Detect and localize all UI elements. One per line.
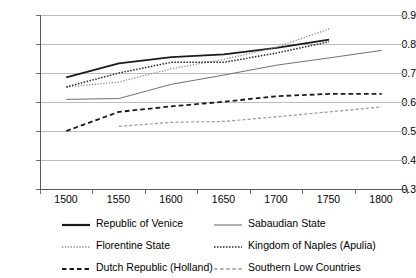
- chart-root: 0.9 0.8 0.7 0.6 0.5 0.4 0.3: [0, 0, 416, 278]
- legend-label-southern-low-countries: Southern Low Countries: [248, 261, 361, 273]
- legend-swatch-kingdom-of-naples: [214, 239, 242, 251]
- legend-label-kingdom-of-naples: Kingdom of Naples (Apulia): [248, 239, 376, 251]
- legend-item-republic-of-venice[interactable]: Republic of Venice: [62, 214, 183, 232]
- series-dutch-republic-holland: [66, 94, 381, 131]
- plot-area: 0.9 0.8 0.7 0.6 0.5 0.4 0.3: [0, 0, 416, 210]
- legend-swatch-sabaudian-state: [214, 217, 242, 229]
- legend-item-kingdom-of-naples[interactable]: Kingdom of Naples (Apulia): [214, 236, 376, 254]
- legend-item-sabaudian-state[interactable]: Sabaudian State: [214, 214, 326, 232]
- series-southern-low-countries: [119, 107, 382, 126]
- legend-label-dutch-republic: Dutch Republic (Holland): [96, 261, 213, 273]
- legend-swatch-dutch-republic: [62, 261, 90, 273]
- chart-legend: Republic of Venice Sabaudian State Flore…: [0, 208, 416, 278]
- legend-label-florentine-state: Florentine State: [96, 239, 170, 251]
- legend-label-republic-of-venice: Republic of Venice: [96, 217, 183, 229]
- legend-item-southern-low-countries[interactable]: Southern Low Countries: [214, 258, 361, 276]
- legend-item-florentine-state[interactable]: Florentine State: [62, 236, 170, 254]
- legend-swatch-republic-of-venice: [62, 217, 90, 229]
- series-lines: [0, 0, 416, 210]
- legend-swatch-southern-low-countries: [214, 261, 242, 273]
- series-florentine-state: [66, 29, 329, 87]
- legend-label-sabaudian-state: Sabaudian State: [248, 217, 326, 229]
- series-republic-of-venice: [66, 40, 329, 78]
- legend-swatch-florentine-state: [62, 239, 90, 251]
- legend-item-dutch-republic[interactable]: Dutch Republic (Holland): [62, 258, 213, 276]
